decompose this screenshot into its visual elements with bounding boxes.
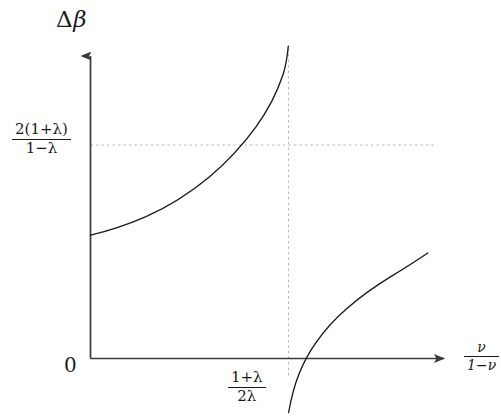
x-axis-title-numerator: ν: [464, 340, 499, 357]
y-tick-label: 2(1+λ) 1−λ: [12, 122, 71, 157]
y-tick-denominator: 1−λ: [12, 140, 71, 157]
x-axis-title-fraction: ν 1−ν: [464, 340, 499, 373]
x-tick-numerator: 1+λ: [228, 370, 266, 388]
y-tick-fraction: 2(1+λ) 1−λ: [12, 122, 71, 157]
x-tick-fraction: 1+λ 2λ: [228, 370, 266, 405]
x-tick-denominator: 2λ: [228, 388, 266, 405]
origin-label: 0: [64, 355, 77, 375]
y-axis-title-beta: β: [73, 6, 87, 32]
y-axis-title: Δβ: [56, 8, 87, 31]
x-tick-label: 1+λ 2λ: [228, 370, 266, 405]
y-axis-title-delta: Δ: [56, 6, 73, 32]
curve-branch-left: [91, 46, 289, 235]
curve-branch-right: [289, 253, 428, 413]
chart-figure: Δβ ν 1−ν 2(1+λ) 1−λ 1+λ 2λ 0: [0, 0, 501, 420]
x-axis-title: ν 1−ν: [464, 340, 499, 373]
x-axis-title-denominator: 1−ν: [464, 357, 499, 373]
y-tick-numerator: 2(1+λ): [12, 122, 71, 140]
